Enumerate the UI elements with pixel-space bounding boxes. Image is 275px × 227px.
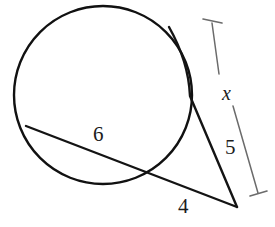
external-secant-length-label: 4 (178, 196, 189, 217)
geometry-canvas (0, 0, 275, 227)
bracket-top-tick (203, 19, 222, 23)
secant-line (26, 126, 237, 207)
chord-length-label: 6 (93, 124, 104, 145)
main-circle (14, 6, 192, 184)
bracket-upper-segment (212, 23, 219, 74)
tangent-line (169, 27, 237, 207)
bracket-lower-segment (233, 106, 258, 193)
bracket-bottom-tick (250, 191, 267, 196)
geometry-diagram: 6 4 5 x (0, 0, 275, 227)
unknown-length-label: x (222, 83, 231, 103)
tangent-segment-length-label: 5 (225, 137, 236, 158)
